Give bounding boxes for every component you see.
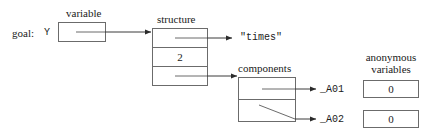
structure-caption: structure xyxy=(157,13,195,25)
anonymous-variable-value-0: 0 xyxy=(363,83,419,95)
components-caption: components xyxy=(238,62,291,74)
anonymous-variable-value-1: 0 xyxy=(363,113,419,125)
variable-caption: variable xyxy=(66,7,101,19)
structure-arity-value: 2 xyxy=(152,51,208,63)
anonymous-variables-caption-line1: anonymous xyxy=(351,51,431,63)
goal-variable-name: Y xyxy=(44,27,50,39)
anonymous-variable-name-0: _A01 xyxy=(320,84,344,96)
anonymous-variable-name-1: _A02 xyxy=(320,114,344,126)
functor-name-label: "times" xyxy=(240,32,282,44)
prolog-term-diagram: goal: Y variable structure 2 "times" com… xyxy=(0,0,435,139)
anonymous-variables-caption-line2: variables xyxy=(351,63,431,75)
goal-label: goal: xyxy=(12,27,34,39)
